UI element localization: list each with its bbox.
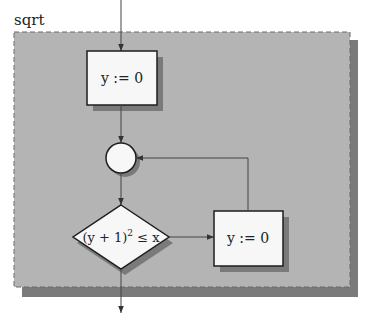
init-process-label: y := 0 <box>100 70 143 86</box>
init-process-node: y := 0 <box>87 51 163 111</box>
condition-label: (y + 1)2 ≤ x <box>82 228 160 245</box>
body-process-node: y := 0 <box>214 211 289 272</box>
flowchart-canvas: sqrt y := 0 (y + 1)2 ≤ x y := 0 <box>0 0 378 321</box>
function-title: sqrt <box>14 11 45 29</box>
body-process-label: y := 0 <box>226 230 269 246</box>
function-frame <box>14 32 350 287</box>
